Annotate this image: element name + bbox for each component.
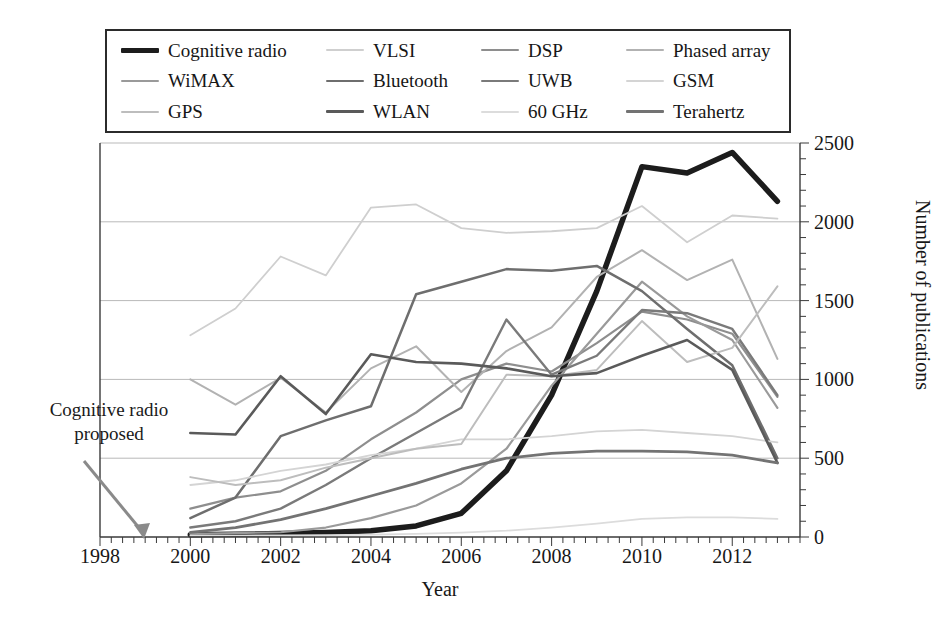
legend-label-cognitive-radio: Cognitive radio (168, 41, 287, 60)
legend-item-bluetooth[interactable]: Bluetooth (326, 66, 481, 97)
x-tick-label-2012: 2012 (712, 545, 752, 568)
legend-item-wlan[interactable]: WLAN (326, 96, 481, 127)
publications-trend-chart: Cognitive radio VLSI DSP Phased array Wi… (0, 0, 936, 626)
legend-item-60-ghz[interactable]: 60 GHz (481, 96, 626, 127)
annotation-line-2: proposed (24, 422, 194, 446)
legend-swatch-dsp (481, 49, 519, 51)
legend-label-wlan: WLAN (373, 102, 430, 121)
legend-item-phased-array[interactable]: Phased array (626, 35, 801, 66)
legend-swatch-vlsi (326, 49, 364, 51)
y-tick-label-1500: 1500 (814, 289, 854, 312)
x-tick-label-2010: 2010 (622, 545, 662, 568)
gridlines (100, 143, 800, 458)
legend-label-gsm: GSM (673, 71, 714, 90)
y-tick-label-2500: 2500 (814, 132, 854, 155)
legend-label-wimax: WiMAX (168, 71, 235, 90)
chart-legend: Cognitive radio VLSI DSP Phased array Wi… (105, 29, 791, 133)
annotation-cognitive-radio-proposed: Cognitive radio proposed (24, 398, 194, 447)
legend-item-terahertz[interactable]: Terahertz (626, 96, 801, 127)
x-tick-label-2008: 2008 (532, 545, 572, 568)
legend-label-60-ghz: 60 GHz (528, 102, 588, 121)
series-lines (190, 152, 777, 535)
plot-svg (100, 143, 800, 537)
x-axis-title: Year (0, 578, 880, 601)
legend-item-dsp[interactable]: DSP (481, 35, 626, 66)
legend-swatch-wimax (121, 80, 159, 82)
legend-swatch-gsm (626, 80, 664, 82)
x-tick-label-2006: 2006 (441, 545, 481, 568)
y-tick-label-0: 0 (814, 526, 824, 549)
annotation-arrow-icon (78, 455, 168, 545)
legend-label-vlsi: VLSI (373, 41, 415, 60)
legend-label-bluetooth: Bluetooth (373, 71, 448, 90)
legend-swatch-60-ghz (481, 111, 519, 113)
y-tick-label-2000: 2000 (814, 210, 854, 233)
y-axis-title: Number of publications (911, 200, 934, 390)
legend-item-cognitive-radio[interactable]: Cognitive radio (121, 35, 326, 66)
x-tick-label-2004: 2004 (351, 545, 391, 568)
legend-swatch-wlan (326, 110, 364, 113)
legend-item-uwb[interactable]: UWB (481, 66, 626, 97)
axis-lines (100, 143, 800, 537)
legend-swatch-gps (121, 111, 159, 113)
legend-label-gps: GPS (168, 102, 203, 121)
legend-swatch-terahertz (626, 110, 664, 113)
x-tick-label-2002: 2002 (261, 545, 301, 568)
legend-item-gsm[interactable]: GSM (626, 66, 801, 97)
legend-item-gps[interactable]: GPS (121, 96, 326, 127)
legend-swatch-bluetooth (326, 80, 364, 83)
annotation-line-1: Cognitive radio (50, 399, 169, 420)
legend-swatch-cognitive-radio (121, 48, 159, 54)
legend-label-terahertz: Terahertz (673, 102, 744, 121)
legend-grid: Cognitive radio VLSI DSP Phased array Wi… (107, 31, 789, 131)
legend-item-vlsi[interactable]: VLSI (326, 35, 481, 66)
legend-swatch-phased-array (626, 49, 664, 51)
legend-label-phased-array: Phased array (673, 41, 771, 60)
y-tick-label-500: 500 (814, 447, 844, 470)
legend-label-uwb: UWB (528, 71, 572, 90)
legend-swatch-uwb (481, 80, 519, 82)
x-tick-label-1998: 1998 (80, 545, 120, 568)
plot-area (100, 143, 800, 537)
legend-item-wimax[interactable]: WiMAX (121, 66, 326, 97)
y-tick-label-1000: 1000 (814, 368, 854, 391)
x-tick-label-2000: 2000 (170, 545, 210, 568)
legend-label-dsp: DSP (528, 41, 563, 60)
